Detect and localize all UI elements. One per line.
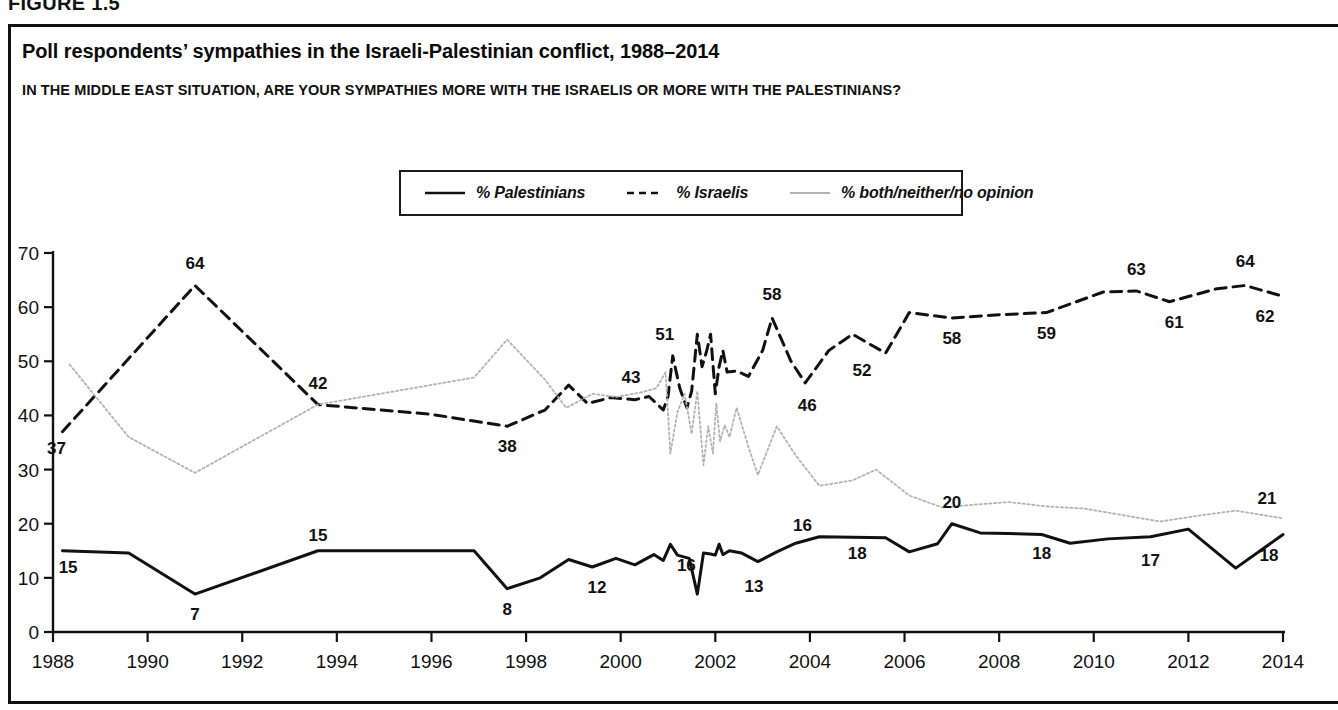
x-axis-tick-label: 2002 xyxy=(694,651,736,672)
data-point-label: 58 xyxy=(942,329,961,348)
data-point-label: 62 xyxy=(1256,307,1275,326)
data-point-label: 18 xyxy=(848,544,867,563)
y-axis-tick-label: 0 xyxy=(28,622,39,643)
data-point-label: 51 xyxy=(655,325,674,344)
data-point-label: 46 xyxy=(798,396,817,415)
x-axis-tick-label: 2012 xyxy=(1167,651,1209,672)
x-axis-tick-label: 1992 xyxy=(221,651,263,672)
data-point-label: 64 xyxy=(1236,252,1255,271)
y-axis-tick-label: 20 xyxy=(18,514,39,535)
data-point-label: 15 xyxy=(308,526,327,545)
x-axis-tick-label: 1990 xyxy=(126,651,168,672)
data-point-label: 16 xyxy=(793,516,812,535)
y-axis-tick-label: 70 xyxy=(18,243,39,264)
y-axis-tick-label: 30 xyxy=(18,460,39,481)
data-point-label: 18 xyxy=(1032,544,1051,563)
data-point-label: 13 xyxy=(744,577,763,596)
data-point-label: 8 xyxy=(502,600,511,619)
x-axis-tick-label: 2014 xyxy=(1262,651,1305,672)
x-axis-tick-label: 1996 xyxy=(410,651,452,672)
data-point-label: 58 xyxy=(763,285,782,304)
y-axis-tick-label: 10 xyxy=(18,568,39,589)
x-axis-tick-label: 2008 xyxy=(978,651,1020,672)
data-point-label: 63 xyxy=(1127,260,1146,279)
data-point-label: 64 xyxy=(185,254,204,273)
data-point-label: 20 xyxy=(942,493,961,512)
y-axis-tick-label: 50 xyxy=(18,351,39,372)
data-point-label: 52 xyxy=(853,361,872,380)
data-point-label: 17 xyxy=(1141,551,1160,570)
x-axis-tick-label: 2010 xyxy=(1073,651,1115,672)
data-point-label: 37 xyxy=(47,439,66,458)
data-point-label: 42 xyxy=(308,374,327,393)
series-line-solid xyxy=(62,524,1283,594)
data-point-label: 16 xyxy=(677,556,696,575)
y-axis-tick-label: 40 xyxy=(18,405,39,426)
data-point-label: 7 xyxy=(190,605,199,624)
data-point-label: 21 xyxy=(1258,489,1277,508)
x-axis-tick-label: 1988 xyxy=(32,651,74,672)
x-axis-tick-label: 2000 xyxy=(600,651,642,672)
data-point-label: 18 xyxy=(1260,546,1279,565)
y-axis-tick-label: 60 xyxy=(18,297,39,318)
data-point-label: 59 xyxy=(1037,324,1056,343)
series-line-dashed xyxy=(62,285,1283,431)
x-axis-tick-label: 2006 xyxy=(883,651,925,672)
data-point-label: 38 xyxy=(498,437,517,456)
data-point-label: 61 xyxy=(1165,313,1184,332)
data-point-label: 43 xyxy=(621,368,640,387)
x-axis-tick-label: 2004 xyxy=(789,651,832,672)
data-point-label: 15 xyxy=(59,558,78,577)
data-point-label: 12 xyxy=(588,578,607,597)
x-axis-tick-label: 1998 xyxy=(505,651,547,672)
x-axis-tick-label: 1994 xyxy=(316,651,359,672)
